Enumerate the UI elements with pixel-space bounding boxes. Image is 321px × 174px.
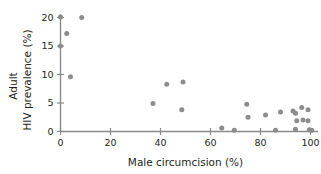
data-point <box>151 101 156 106</box>
y-tick-label: 10 <box>41 69 53 80</box>
data-points <box>58 14 314 132</box>
x-tick-label: 0 <box>57 137 63 148</box>
data-point <box>301 118 306 123</box>
data-point <box>306 107 311 112</box>
data-point <box>79 15 84 20</box>
x-tick-label: 80 <box>254 137 266 148</box>
data-point <box>293 127 298 132</box>
data-point <box>164 82 169 87</box>
y-axis-label-line2: HIV prevalence (%) <box>21 29 33 130</box>
data-point <box>58 44 63 49</box>
data-point <box>306 118 311 123</box>
data-point <box>278 110 283 115</box>
x-tick-label: 40 <box>154 137 166 148</box>
x-axis-label: Male circumcision (%) <box>128 156 243 168</box>
data-point <box>219 126 224 131</box>
y-tick-label: 20 <box>41 12 53 23</box>
chart-canvas: 05101520 020406080100 Male circumcision … <box>0 0 321 174</box>
data-point <box>68 74 73 79</box>
x-tick-label: 60 <box>204 137 216 148</box>
data-point <box>293 111 298 116</box>
data-point <box>299 105 304 110</box>
y-tick-label: 15 <box>41 40 53 51</box>
data-point <box>263 112 268 117</box>
data-point <box>294 118 299 123</box>
scatter-chart: 05101520 020406080100 Male circumcision … <box>0 0 321 174</box>
data-point <box>244 102 249 107</box>
y-axis-label-line1: Adult <box>7 72 19 99</box>
data-point <box>181 79 186 84</box>
data-point <box>64 31 69 36</box>
y-tick-label: 5 <box>47 97 53 108</box>
data-point <box>273 128 278 133</box>
y-tick-label: 0 <box>47 126 53 137</box>
data-point <box>232 128 237 133</box>
data-point <box>309 128 314 133</box>
x-tick-label: 20 <box>104 137 116 148</box>
x-tick-label: 100 <box>301 137 319 148</box>
data-point <box>179 107 184 112</box>
data-point <box>246 115 251 120</box>
data-point <box>58 14 63 19</box>
